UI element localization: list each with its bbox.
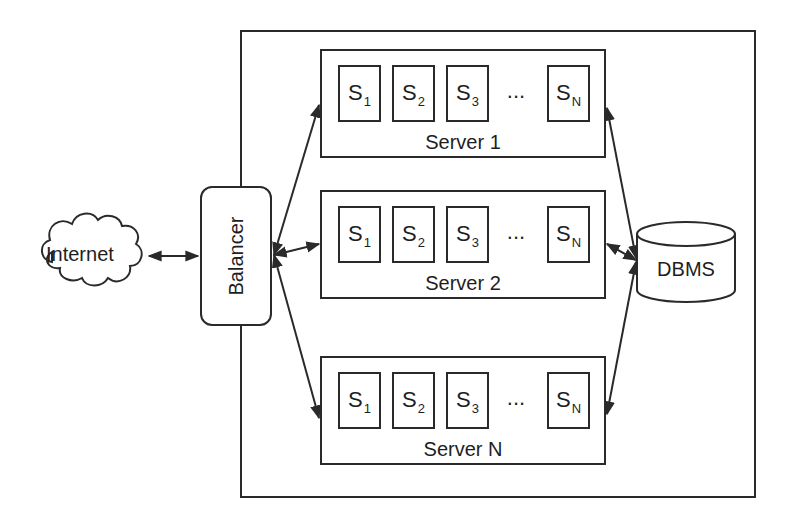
service-slot: S3 [446,65,489,122]
internet-label: Internet [46,243,114,266]
architecture-diagram: Internet Balancer DBMS S1 S2 S3 ... SN S… [0,0,792,524]
ellipsis: ... [496,372,536,429]
service-slot: S2 [392,372,435,429]
server-label: Server 2 [322,271,604,295]
server-label: Server 1 [322,130,604,154]
service-slot: S2 [392,206,435,263]
service-slot: S2 [392,65,435,122]
ellipsis: ... [496,65,536,122]
load-balancer: Balancer [200,186,272,326]
service-slot: S3 [446,206,489,263]
server-label: Server N [322,437,604,461]
service-slot: S1 [338,65,381,122]
server-n: S1 S2 S3 ... SN Server N [320,356,606,465]
service-slot: SN [547,65,590,122]
service-slot: S1 [338,206,381,263]
service-slot: S3 [446,372,489,429]
server-1: S1 S2 S3 ... SN Server 1 [320,49,606,158]
service-slot: SN [547,372,590,429]
service-slot: SN [547,206,590,263]
service-slot: S1 [338,372,381,429]
ellipsis: ... [496,206,536,263]
dbms-label: DBMS [636,258,736,281]
balancer-label: Balancer [225,217,248,296]
server-2: S1 S2 S3 ... SN Server 2 [320,190,606,299]
